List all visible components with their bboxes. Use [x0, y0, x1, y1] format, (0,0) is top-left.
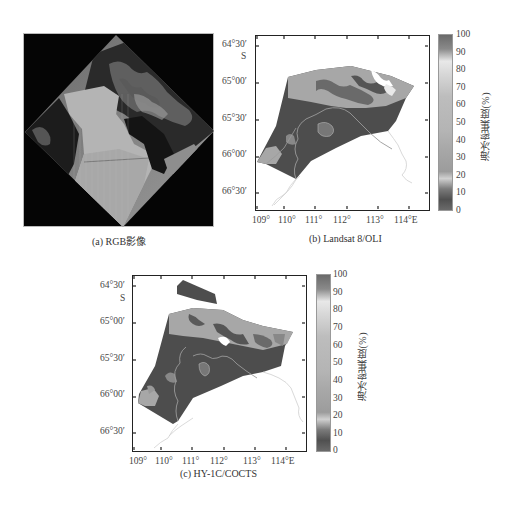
panel-b-ytick-6600: 66°00′ [222, 149, 247, 159]
panel-c-cbtick-60: 60 [333, 340, 343, 350]
panel-b-ytick-6500: 65°00′ [222, 76, 247, 86]
panel-c-cbtick-80: 80 [333, 304, 343, 314]
panel-c-caption: (c) HY-1C/COCTS [180, 468, 257, 479]
hy1c-sea-ice-map [133, 276, 305, 450]
panel-c-cbtick-30: 30 [333, 393, 343, 403]
panel-c-xtick-114: 114°E [271, 456, 295, 466]
panel-a-rgb-image [23, 33, 214, 227]
panel-c-xtick-110: 110° [155, 456, 173, 466]
panel-b-ytick-6430: 64°30′ [222, 39, 247, 49]
panel-c-ytick-S: S [120, 293, 125, 303]
panel-b-ytick-S: S [241, 51, 246, 61]
panel-c-cbtick-100: 100 [333, 269, 347, 279]
panel-b-ytick-6630: 66°30′ [222, 186, 247, 196]
panel-c-map-frame [132, 275, 307, 452]
panel-c-ytick-6500: 65°00′ [100, 316, 125, 326]
panel-c-xtick-111: 111° [182, 456, 199, 466]
panel-c-cbtick-50: 50 [333, 357, 343, 367]
panel-c-cbtick-20: 20 [333, 410, 343, 420]
panel-b-cbtick-20: 20 [456, 170, 466, 180]
panel-b-cbtick-100: 100 [456, 29, 470, 39]
panel-b-colorbar-title: 海冰密集度(%) [478, 92, 493, 161]
panel-c-cbtick-70: 70 [333, 322, 343, 332]
panel-b-xtick-114: 114°E [394, 215, 418, 225]
panel-c-ytick-6630: 66°30′ [100, 426, 125, 436]
panel-b-cbtick-60: 60 [456, 99, 466, 109]
panel-c-colorbar-title: 海冰密集度(%) [355, 332, 370, 401]
rgb-satellite-image [24, 34, 215, 228]
panel-c-cbtick-40: 40 [333, 375, 343, 385]
panel-b-xtick-111: 111° [305, 215, 322, 225]
panel-b-ytick-6530: 65°30′ [222, 113, 247, 123]
panel-b-xtick-110: 110° [278, 215, 296, 225]
panel-c-ytick-6530: 65°30′ [100, 353, 125, 363]
panel-b-cbtick-40: 40 [456, 135, 466, 145]
landsat-sea-ice-map [256, 36, 428, 209]
panel-c-cbtick-90: 90 [333, 287, 343, 297]
panel-a-caption: (a) RGB影像 [92, 233, 146, 248]
panel-b-cbtick-90: 90 [456, 47, 466, 57]
panel-c-xtick-109: 109° [129, 456, 147, 466]
panel-b-cbtick-70: 70 [456, 82, 466, 92]
panel-b-map-frame [255, 35, 430, 211]
panel-b-cbtick-80: 80 [456, 64, 466, 74]
panel-c-cbtick-10: 10 [333, 428, 343, 438]
panel-c-xtick-112: 112° [210, 456, 228, 466]
panel-c-xtick-113: 113° [243, 456, 261, 466]
panel-b-xtick-113: 113° [366, 215, 384, 225]
panel-b-cbtick-10: 10 [456, 187, 466, 197]
panel-b-cbtick-50: 50 [456, 117, 466, 127]
panel-b-xtick-112: 112° [333, 215, 351, 225]
panel-b-cbtick-0: 0 [456, 205, 461, 215]
panel-b-cbtick-30: 30 [456, 152, 466, 162]
panel-b-xtick-109: 109° [252, 215, 270, 225]
panel-c-colorbar [316, 274, 331, 452]
panel-b-colorbar [438, 34, 453, 211]
panel-c-ytick-6600: 66°00′ [100, 389, 125, 399]
panel-b-caption: (b) Landsat 8/OLI [309, 233, 382, 244]
panel-c-cbtick-0: 0 [333, 445, 338, 455]
panel-c-ytick-6430: 64°30′ [100, 280, 125, 290]
